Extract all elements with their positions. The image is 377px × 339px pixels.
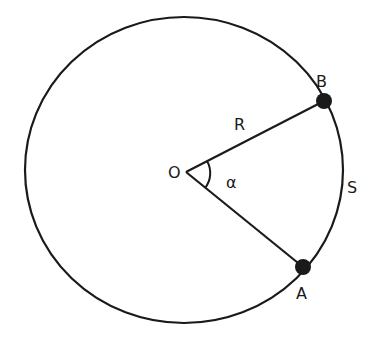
label-center-o: O	[168, 163, 181, 182]
circle-sector-diagram: O R α S B A	[0, 0, 377, 339]
background-bleed-text	[245, 0, 377, 339]
angle-alpha-arc	[205, 161, 210, 188]
label-point-a: A	[296, 284, 307, 303]
label-arc-s: S	[347, 178, 357, 197]
label-radius-r: R	[234, 115, 245, 134]
label-angle-alpha: α	[226, 173, 237, 192]
point-a	[295, 259, 311, 275]
label-point-b: B	[316, 72, 327, 91]
point-b	[316, 93, 332, 109]
